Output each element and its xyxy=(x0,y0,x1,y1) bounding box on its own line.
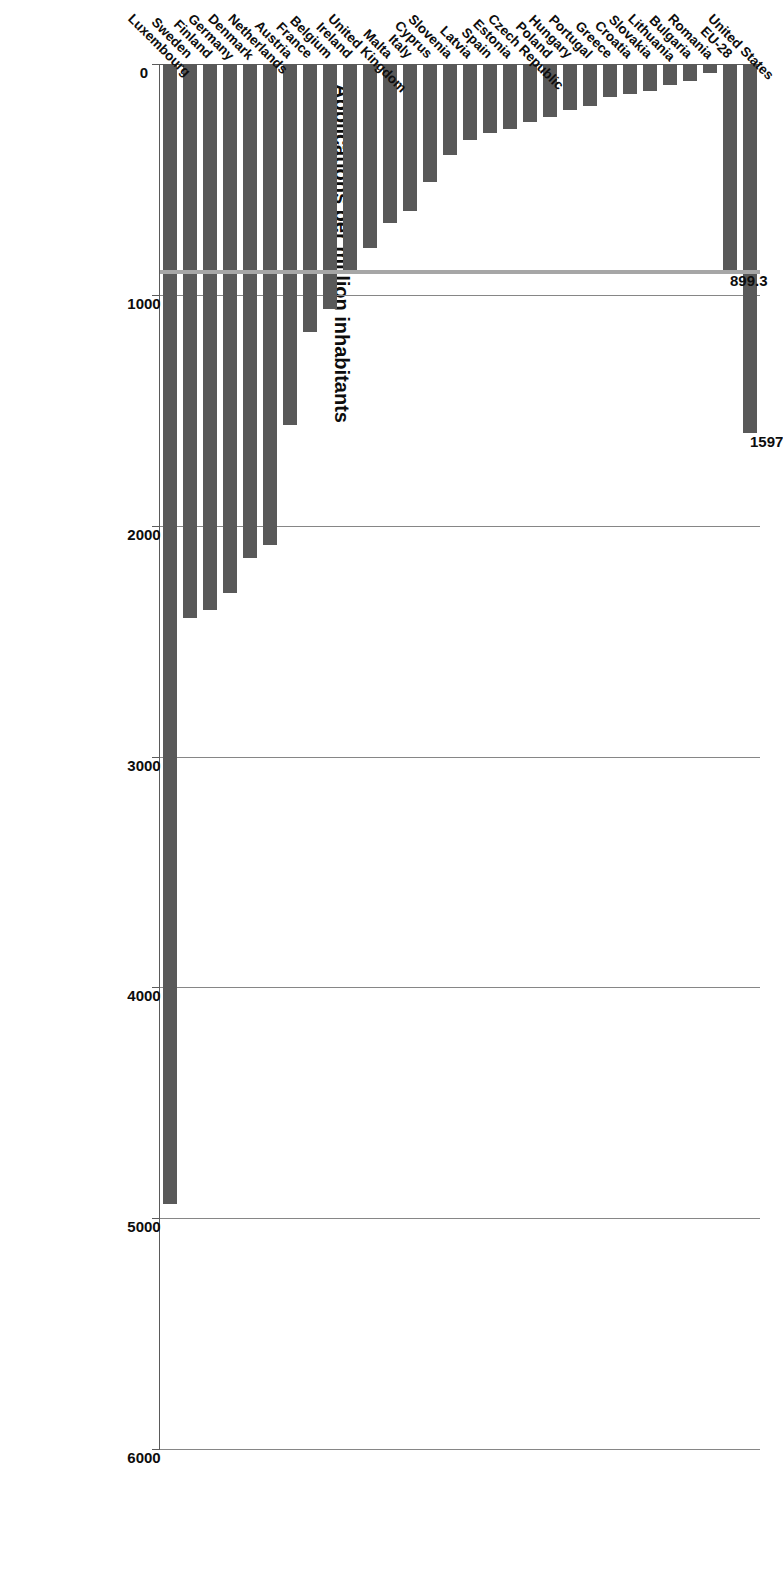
reference-line xyxy=(160,270,760,274)
bar xyxy=(263,64,277,545)
bar xyxy=(183,64,197,618)
bar xyxy=(223,64,237,593)
bar-chart: Applications per million inhabitants 010… xyxy=(0,0,783,1579)
value-tick-label: 2000 xyxy=(127,526,160,543)
bar xyxy=(463,64,477,140)
bar xyxy=(243,64,257,558)
plot-area xyxy=(160,64,760,1449)
bar xyxy=(503,64,517,129)
value-tick-label: 4000 xyxy=(127,987,160,1004)
bar xyxy=(583,64,597,106)
bar xyxy=(483,64,497,133)
bar xyxy=(743,64,757,433)
bar xyxy=(203,64,217,610)
bar xyxy=(363,64,377,248)
bar xyxy=(723,64,737,272)
bar xyxy=(623,64,637,94)
chart-rotated-container: Applications per million inhabitants 010… xyxy=(0,0,783,1579)
bar xyxy=(603,64,617,97)
bar xyxy=(703,64,717,73)
data-label: 1597 xyxy=(750,432,783,449)
bar xyxy=(283,64,297,425)
bar xyxy=(663,64,677,85)
bar xyxy=(423,64,437,182)
bar xyxy=(303,64,317,332)
bar xyxy=(443,64,457,155)
bar xyxy=(643,64,657,91)
value-tick-label: 3000 xyxy=(127,757,160,774)
data-label: 899.3 xyxy=(730,271,768,288)
bar xyxy=(163,64,177,1204)
value-tick-label: 5000 xyxy=(127,1218,160,1235)
value-tick-label: 1000 xyxy=(127,295,160,312)
value-tick-label: 0 xyxy=(140,64,148,81)
bar xyxy=(523,64,537,122)
chart-figure: Applications per million inhabitants 010… xyxy=(0,0,783,1579)
gridline xyxy=(160,1449,760,1450)
bar xyxy=(563,64,577,110)
bar xyxy=(683,64,697,81)
bar xyxy=(343,64,357,274)
value-tick-label: 6000 xyxy=(127,1449,160,1466)
